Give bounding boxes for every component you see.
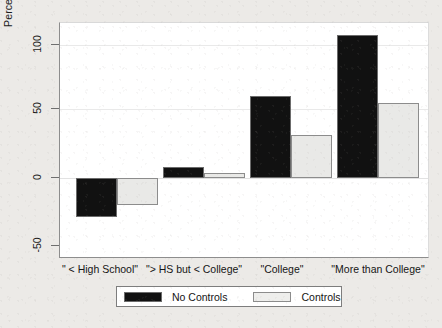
x-tick-label-college: "College" <box>249 262 315 277</box>
bar-no-controls-hs-to-college <box>163 167 204 178</box>
chart-legend: No Controls Controls <box>116 286 342 307</box>
bar-controls-college <box>291 135 332 178</box>
bar-controls-hs-to-college <box>204 173 245 179</box>
chart-canvas: Percent Wage Relative to High School 100… <box>0 0 442 328</box>
y-tick-label-100: 100 <box>30 24 44 64</box>
legend-swatch-no-controls <box>124 292 162 302</box>
y-tick-mark-neg50 <box>51 245 59 246</box>
legend-label-controls: Controls <box>301 291 340 303</box>
y-tick-label-50: 50 <box>30 88 44 128</box>
y-tick-mark-0 <box>51 177 59 178</box>
legend-entry-no-controls: No Controls <box>124 287 227 306</box>
y-tick-mark-100 <box>51 44 59 45</box>
y-tick-label-neg50: -50 <box>30 225 44 265</box>
y-tick-label-0: 0 <box>30 157 44 197</box>
legend-entry-controls: Controls <box>253 287 340 306</box>
bar-no-controls-college <box>250 96 291 178</box>
x-tick-label-more-than-college: "More than College" <box>320 262 436 277</box>
plot-area <box>59 22 429 258</box>
x-tick-label-less-than-high-school: " < High School" <box>57 262 143 277</box>
bar-no-controls-less-than-high-school <box>76 178 117 217</box>
y-axis-title: Percent Wage Relative to High School <box>0 0 16 54</box>
bar-controls-more-than-college <box>378 103 419 178</box>
x-tick-label-hs-to-college: "> HS but < College" <box>143 262 245 277</box>
legend-swatch-controls <box>253 292 291 302</box>
y-tick-mark-50 <box>51 108 59 109</box>
legend-label-no-controls: No Controls <box>172 291 227 303</box>
bar-controls-less-than-high-school <box>117 178 158 205</box>
bar-no-controls-more-than-college <box>337 35 378 178</box>
